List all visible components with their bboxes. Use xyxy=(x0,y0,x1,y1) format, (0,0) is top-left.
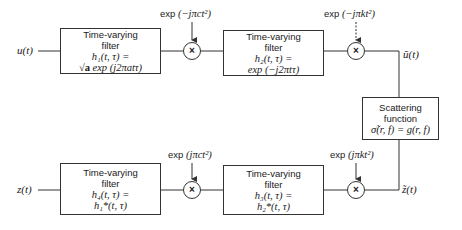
filter-h4-equation-line1: h₄(t, τ) = xyxy=(92,189,130,200)
filter-h2-subtitle: filter xyxy=(265,42,283,53)
multiplier-3-label-exp: exp xyxy=(330,149,348,160)
input-signal-label: u(t) xyxy=(17,44,33,56)
filter-h3-equation-line1: h₃(t, τ) = xyxy=(255,190,293,201)
filter-h2-block: Time-varying filter h₂(t, τ) = exp (−j2π… xyxy=(223,30,324,76)
filter-h1-equation-line2: exp (j2πatτ) xyxy=(90,62,142,73)
filter-h3-subtitle: filter xyxy=(265,179,283,190)
multiplier-2-icon: × xyxy=(347,42,365,60)
multiplier-1-label: exp (−jπct²) xyxy=(160,8,211,19)
filter-h1-sqrt-a: √a xyxy=(79,62,90,73)
filter-h2-equation-line1: h₂(t, τ) = xyxy=(255,53,293,64)
intermediate-bottom-signal-label: z̃(t) xyxy=(402,183,417,195)
multiplier-1-icon: × xyxy=(183,42,201,60)
multiplier-4-label-exp: exp xyxy=(168,149,186,160)
multiplier-4-label: exp (jπct²) xyxy=(168,149,212,160)
multiplier-2-label-expr: (−jπkt²) xyxy=(342,8,375,19)
filter-h1-title: Time-varying xyxy=(83,29,138,40)
intermediate-top-signal-label: ũ(t) xyxy=(403,48,419,60)
scattering-subtitle: function xyxy=(384,113,417,124)
filter-h4-equation-line2: h₁*(t, τ) xyxy=(94,200,127,211)
filter-h1-equation-line1: h₁(t, τ) = xyxy=(92,51,130,62)
filter-h2-equation-line2: exp (−j2πtτ) xyxy=(248,64,299,75)
multiplier-1-label-expr: (−jπct²) xyxy=(178,8,211,19)
filter-h4-title: Time-varying xyxy=(83,167,138,178)
scattering-equation: σ̃(r, f) = g(r, f) xyxy=(371,124,430,135)
filter-h4-subtitle: filter xyxy=(102,178,120,189)
multiplier-1-label-exp: exp xyxy=(160,8,178,19)
filter-h1-subtitle: filter xyxy=(102,40,120,51)
block-diagram: u(t) z(t) ũ(t) z̃(t) Time-varying filter… xyxy=(0,0,462,230)
filter-h1-block: Time-varying filter h₁(t, τ) = √a exp (j… xyxy=(60,28,161,74)
multiplier-3-label-expr: (jπkt²) xyxy=(348,149,374,160)
filter-h2-title: Time-varying xyxy=(246,31,301,42)
filter-h3-block: Time-varying filter h₃(t, τ) = h₂*(t, τ) xyxy=(223,165,324,215)
multiplier-2-label-exp: exp xyxy=(324,8,342,19)
scattering-function-block: Scattering function σ̃(r, f) = g(r, f) xyxy=(362,97,439,140)
output-signal-label: z(t) xyxy=(17,183,32,195)
scattering-title: Scattering xyxy=(379,102,422,113)
multiplier-4-label-expr: (jπct²) xyxy=(186,149,212,160)
multiplier-3-label: exp (jπkt²) xyxy=(330,149,374,160)
multiplier-3-icon: × xyxy=(347,181,365,199)
filter-h3-title: Time-varying xyxy=(246,168,301,179)
filter-h4-block: Time-varying filter h₄(t, τ) = h₁*(t, τ) xyxy=(60,163,161,215)
multiplier-4-icon: × xyxy=(183,181,201,199)
filter-h3-equation-line2: h₂*(t, τ) xyxy=(257,201,290,212)
multiplier-2-label: exp (−jπkt²) xyxy=(324,8,375,19)
